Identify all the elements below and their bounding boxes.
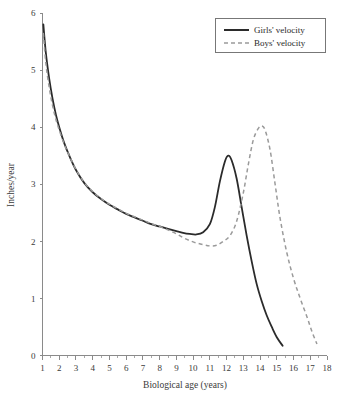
x-tick-label: 9 bbox=[174, 363, 179, 373]
x-tick-label: 12 bbox=[222, 363, 231, 373]
x-tick-label: 4 bbox=[90, 363, 95, 373]
series-line-girls bbox=[43, 24, 282, 345]
plot-area: 0123456 123456789101112131415161718 bbox=[31, 8, 332, 372]
y-tick-label: 6 bbox=[31, 8, 36, 18]
x-tick-label: 15 bbox=[272, 363, 282, 373]
growth-velocity-chart: 0123456 123456789101112131415161718 Biol… bbox=[0, 0, 341, 402]
y-tick-label: 3 bbox=[31, 179, 36, 189]
x-tick-label: 2 bbox=[57, 363, 62, 373]
x-tick-label: 18 bbox=[323, 363, 333, 373]
legend: Girls' velocity Boys' velocity bbox=[216, 19, 326, 53]
y-axis-tick-labels: 0123456 bbox=[31, 8, 36, 361]
x-axis-tick-labels: 123456789101112131415161718 bbox=[40, 363, 332, 373]
x-tick-label: 6 bbox=[124, 363, 129, 373]
x-tick-label: 8 bbox=[157, 363, 162, 373]
x-tick-label: 11 bbox=[206, 363, 215, 373]
x-tick-label: 16 bbox=[289, 363, 299, 373]
y-tick-label: 0 bbox=[31, 351, 36, 361]
y-tick-label: 5 bbox=[31, 65, 36, 75]
legend-label-girls: Girls' velocity bbox=[254, 25, 305, 35]
x-tick-label: 10 bbox=[189, 363, 199, 373]
y-tick-label: 1 bbox=[31, 294, 36, 304]
x-tick-label: 7 bbox=[141, 363, 146, 373]
y-tick-label: 2 bbox=[31, 237, 36, 247]
x-tick-label: 17 bbox=[306, 363, 316, 373]
y-tick-label: 4 bbox=[31, 122, 36, 132]
x-tick-label: 1 bbox=[40, 363, 45, 373]
x-tick-label: 13 bbox=[239, 363, 249, 373]
x-axis-title: Biological age (years) bbox=[143, 380, 227, 391]
x-tick-label: 3 bbox=[74, 363, 79, 373]
x-tick-label: 14 bbox=[256, 363, 266, 373]
legend-label-boys: Boys' velocity bbox=[254, 38, 306, 48]
x-tick-label: 5 bbox=[107, 363, 112, 373]
series-line-boys bbox=[43, 33, 317, 344]
chart-figure: 0123456 123456789101112131415161718 Biol… bbox=[0, 0, 341, 402]
y-axis-title: Inches/year bbox=[6, 162, 16, 207]
